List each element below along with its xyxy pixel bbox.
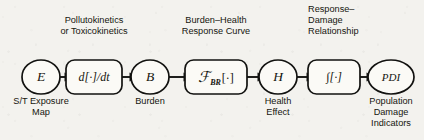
caption-line: Effect: [266, 107, 290, 117]
caption-line: Indicators: [371, 118, 411, 128]
caption-line: Damage: [374, 107, 409, 117]
annotation-line: Response–: [308, 4, 355, 14]
caption-line: Burden: [135, 96, 165, 106]
annotation-line: or Toxicokinetics: [60, 26, 128, 36]
annotation-line: Burden–Health: [185, 15, 246, 25]
node-E[interactable]: E: [22, 60, 60, 94]
node-H[interactable]: H: [259, 60, 297, 94]
node-caption-PDI: PopulationDamageIndicators: [369, 96, 412, 128]
node-caption-B: Burden: [135, 96, 165, 106]
node-symbol: E: [36, 69, 46, 84]
annotation-line: Relationship: [308, 26, 359, 36]
node-FBR[interactable]: ℱBR[·]: [185, 60, 247, 94]
node-int[interactable]: ∫[·]: [308, 60, 360, 94]
node-ddt[interactable]: d[·]/dt: [66, 60, 122, 94]
node-caption-H: HealthEffect: [265, 96, 292, 117]
node-caption-E: S/T ExposureMap: [13, 96, 69, 117]
node-PDI[interactable]: PDI: [368, 60, 414, 94]
node-symbol-subscript: BR: [209, 78, 221, 87]
node-symbol: PDI: [381, 71, 402, 83]
node-symbol-bracket: [·]: [222, 71, 234, 85]
annotation-line: Damage: [308, 15, 343, 25]
annotation-pollutokinetics: Pollutokineticsor Toxicokinetics: [60, 15, 128, 36]
annotation-line: Response Curve: [182, 26, 250, 36]
caption-line: Map: [32, 107, 50, 117]
node-symbol: d[·]/dt: [78, 70, 110, 84]
node-symbol: B: [146, 69, 154, 84]
node-B[interactable]: B: [131, 60, 169, 94]
process-flow-diagram: ES/T ExposureMapd[·]/dtBBurdenℱBR[·]HHea…: [0, 0, 424, 140]
caption-line: Population: [369, 96, 412, 106]
caption-line: Health: [265, 96, 292, 106]
diagram-canvas: ES/T ExposureMapd[·]/dtBBurdenℱBR[·]HHea…: [0, 0, 424, 140]
annotation-line: Pollutokinetics: [65, 15, 124, 25]
annotation-response-damage: Response–DamageRelationship: [308, 4, 359, 36]
caption-line: S/T Exposure: [13, 96, 69, 106]
annotation-burden-health: Burden–HealthResponse Curve: [182, 15, 250, 36]
node-symbol: ∫[·]: [325, 70, 342, 84]
node-symbol: H: [272, 69, 284, 84]
